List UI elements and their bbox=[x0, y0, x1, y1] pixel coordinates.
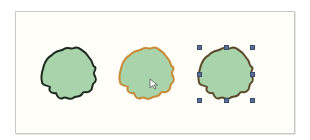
resize-handle-bottom-left[interactable] bbox=[197, 98, 202, 103]
resize-handle-right[interactable] bbox=[250, 72, 255, 77]
resize-handle-top-right[interactable] bbox=[250, 45, 255, 50]
resize-handle-bottom-right[interactable] bbox=[250, 98, 255, 103]
pointer-arrow-icon bbox=[149, 78, 159, 90]
blob-shape-hover[interactable] bbox=[116, 45, 180, 105]
resize-handle-top[interactable] bbox=[224, 45, 229, 50]
resize-handle-left[interactable] bbox=[197, 72, 202, 77]
resize-handle-top-left[interactable] bbox=[197, 45, 202, 50]
blob-shape-default[interactable] bbox=[38, 45, 102, 105]
resize-handle-bottom[interactable] bbox=[224, 98, 229, 103]
